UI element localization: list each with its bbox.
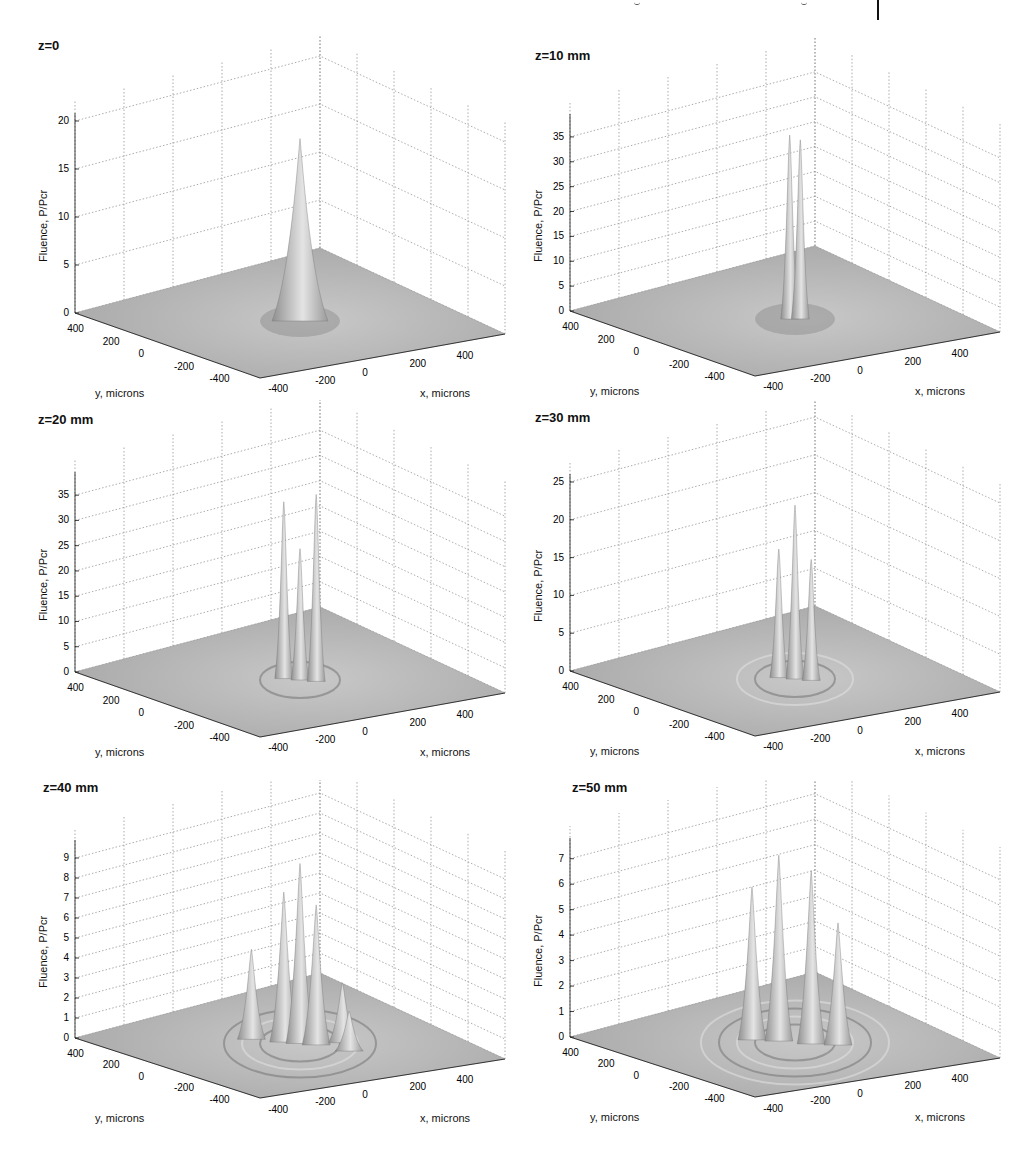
- svg-text:-200: -200: [810, 1095, 830, 1106]
- svg-text:200: 200: [904, 356, 921, 367]
- svg-text:7: 7: [63, 892, 69, 903]
- svg-text:0: 0: [362, 726, 368, 737]
- svg-text:30: 30: [553, 156, 565, 167]
- svg-text:400: 400: [562, 681, 579, 692]
- svg-text:10: 10: [58, 615, 70, 626]
- svg-text:9: 9: [63, 852, 69, 863]
- svg-text:0: 0: [857, 365, 863, 376]
- svg-text:-400: -400: [705, 1093, 725, 1104]
- svg-text:-400: -400: [210, 732, 230, 743]
- svg-text:400: 400: [67, 323, 84, 334]
- svg-text:400: 400: [562, 321, 579, 332]
- y-axis-label: y, microns: [590, 745, 639, 757]
- svg-text:-400: -400: [210, 1094, 230, 1105]
- svg-text:400: 400: [457, 350, 474, 361]
- svg-text:4: 4: [63, 952, 69, 963]
- z-axis-label: Fluence, P/Pcr: [37, 916, 49, 988]
- svg-text:1: 1: [63, 1012, 69, 1023]
- svg-text:400: 400: [562, 1047, 579, 1058]
- svg-text:200: 200: [103, 1059, 120, 1070]
- svg-text:20: 20: [58, 115, 70, 126]
- header-text-fragment: [634, 0, 640, 5]
- svg-text:5: 5: [558, 280, 564, 291]
- panel-title: z=50 mm: [572, 780, 627, 795]
- svg-text:20: 20: [553, 206, 565, 217]
- svg-text:-400: -400: [763, 1103, 783, 1114]
- svg-text:5: 5: [63, 259, 69, 270]
- svg-text:-400: -400: [763, 741, 783, 752]
- panel-title: z=10 mm: [535, 48, 590, 63]
- svg-text:400: 400: [67, 1048, 84, 1059]
- svg-text:25: 25: [553, 181, 565, 192]
- svg-text:2: 2: [558, 980, 564, 991]
- svg-text:200: 200: [598, 694, 615, 705]
- svg-text:-200: -200: [669, 719, 689, 730]
- svg-text:7: 7: [558, 853, 564, 864]
- panel-title: z=0: [38, 38, 59, 53]
- svg-text:200: 200: [904, 1080, 921, 1091]
- x-axis-label: x, microns: [915, 385, 965, 397]
- svg-text:20: 20: [553, 514, 565, 525]
- svg-text:0: 0: [138, 707, 144, 718]
- svg-text:25: 25: [58, 540, 70, 551]
- svg-text:4: 4: [558, 929, 564, 940]
- svg-text:15: 15: [553, 230, 565, 241]
- svg-text:200: 200: [409, 1081, 426, 1092]
- x-axis-label: x, microns: [420, 1112, 470, 1124]
- y-axis-label: y, microns: [590, 385, 639, 397]
- svg-text:200: 200: [904, 716, 921, 727]
- svg-text:-400: -400: [268, 1104, 288, 1115]
- svg-text:0: 0: [138, 1071, 144, 1082]
- surface-plot-p2: 051015202530354002000-200-400-400-200020…: [0, 400, 515, 775]
- svg-text:200: 200: [103, 336, 120, 347]
- svg-text:-400: -400: [268, 383, 288, 394]
- svg-text:-400: -400: [705, 371, 725, 382]
- svg-text:35: 35: [553, 131, 565, 142]
- svg-text:0: 0: [633, 1070, 639, 1081]
- svg-text:5: 5: [558, 627, 564, 638]
- svg-text:0: 0: [138, 348, 144, 359]
- svg-text:6: 6: [558, 878, 564, 889]
- svg-text:0: 0: [362, 1089, 368, 1100]
- svg-text:200: 200: [598, 1058, 615, 1069]
- surface-plot-p1: 051015202530354002000-200-400-400-200020…: [515, 20, 1030, 395]
- svg-text:5: 5: [558, 904, 564, 915]
- svg-text:-200: -200: [669, 359, 689, 370]
- svg-text:6: 6: [63, 912, 69, 923]
- svg-text:15: 15: [553, 552, 565, 563]
- svg-text:-400: -400: [705, 731, 725, 742]
- surface-plot-p4: 01234567894002000-200-400-400-2000200400…: [0, 780, 515, 1155]
- svg-text:10: 10: [553, 255, 565, 266]
- svg-text:-400: -400: [763, 381, 783, 392]
- svg-text:0: 0: [558, 305, 564, 316]
- svg-text:20: 20: [58, 565, 70, 576]
- svg-text:200: 200: [598, 334, 615, 345]
- y-axis-label: y, microns: [95, 387, 144, 399]
- svg-text:400: 400: [67, 682, 84, 693]
- svg-text:10: 10: [553, 589, 565, 600]
- x-axis-label: x, microns: [420, 387, 470, 399]
- z-axis-label: Fluence, P/Pcr: [37, 190, 49, 262]
- svg-text:200: 200: [409, 717, 426, 728]
- panel-title: z=40 mm: [43, 780, 98, 795]
- y-axis-label: y, microns: [95, 1112, 144, 1124]
- svg-text:15: 15: [58, 590, 70, 601]
- svg-text:0: 0: [857, 1088, 863, 1099]
- svg-text:400: 400: [457, 709, 474, 720]
- svg-text:0: 0: [558, 1031, 564, 1042]
- surface-plot-p5: 012345674002000-200-400-400-2000200400z=…: [515, 780, 1030, 1155]
- svg-text:-200: -200: [315, 375, 335, 386]
- svg-text:0: 0: [362, 367, 368, 378]
- svg-text:3: 3: [63, 972, 69, 983]
- y-axis-label: y, microns: [95, 746, 144, 758]
- svg-text:-200: -200: [174, 720, 194, 731]
- svg-text:400: 400: [952, 348, 969, 359]
- surface-plot-p0: 051015204002000-200-400-400-2000200400z=…: [0, 20, 515, 395]
- svg-text:-200: -200: [315, 1096, 335, 1107]
- svg-text:-200: -200: [174, 1082, 194, 1093]
- svg-text:400: 400: [952, 1073, 969, 1084]
- svg-text:5: 5: [63, 932, 69, 943]
- svg-text:-200: -200: [810, 733, 830, 744]
- z-axis-label: Fluence, P/Pcr: [37, 549, 49, 621]
- svg-text:0: 0: [63, 307, 69, 318]
